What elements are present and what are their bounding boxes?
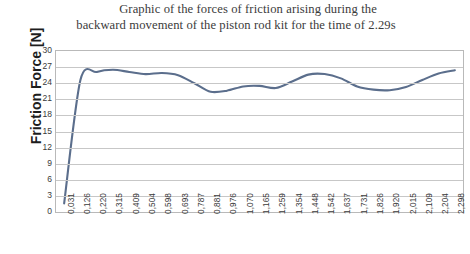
gridline xyxy=(56,148,463,149)
y-axis-tick-label: 24 xyxy=(43,78,52,86)
y-axis-tick-label: 6 xyxy=(47,175,52,183)
x-axis-tick-label: 1,070 xyxy=(246,193,255,214)
y-axis-tick-label: 9 xyxy=(47,159,52,167)
x-axis-tick-label: 2,204 xyxy=(441,193,450,214)
gridline xyxy=(56,83,463,84)
gridline xyxy=(56,132,463,133)
x-axis-tick-label: 0,031 xyxy=(67,193,76,214)
y-axis-tick-label: 21 xyxy=(43,94,52,102)
x-axis-tick-label: 0,409 xyxy=(132,193,141,214)
x-axis-tick-label: 1,354 xyxy=(295,193,304,214)
gridline xyxy=(56,99,463,100)
gridline xyxy=(56,67,463,68)
chart-title-line-1: Graphic of the forces of friction arisin… xyxy=(0,1,470,17)
x-axis-tick-label: 1,448 xyxy=(311,193,320,214)
x-axis-tick-label: 1,259 xyxy=(278,193,287,214)
y-axis-tick-label: 3 xyxy=(47,191,52,199)
x-axis-tick-label: 1,826 xyxy=(376,193,385,214)
x-axis-tick-label: 0,976 xyxy=(229,193,238,214)
data-series-line xyxy=(64,69,455,203)
gridline xyxy=(56,180,463,181)
x-axis-tick-labels: 0,0310,1260,2200,3150,4090,5040,5980,693… xyxy=(55,214,464,254)
y-axis-tick-label: 30 xyxy=(43,46,52,54)
chart-title: Graphic of the forces of friction arisin… xyxy=(0,1,470,33)
x-axis-tick-label: 2,298 xyxy=(457,193,466,214)
chart-title-line-2: backward movement of the piston rod kit … xyxy=(0,17,470,33)
x-axis-tick-label: 1,731 xyxy=(360,193,369,214)
y-axis-tick-label: 27 xyxy=(43,62,52,70)
x-axis-tick-label: 0,315 xyxy=(115,193,124,214)
x-axis-tick-label: 0,693 xyxy=(181,193,190,214)
x-axis-tick-label: 0,881 xyxy=(213,193,222,214)
y-axis-tick-label: 15 xyxy=(43,127,52,135)
x-axis-tick-label: 1,637 xyxy=(343,193,352,214)
x-axis-tick-label: 0,787 xyxy=(197,193,206,214)
x-axis-tick-label: 1,542 xyxy=(327,193,336,214)
y-axis-tick-label: 12 xyxy=(43,143,52,151)
x-axis-tick-label: 0,598 xyxy=(164,193,173,214)
x-axis-tick-label: 1,920 xyxy=(392,193,401,214)
x-axis-tick-label: 2,109 xyxy=(425,193,434,214)
gridline xyxy=(56,115,463,116)
y-axis-tick-label: 18 xyxy=(43,110,52,118)
x-axis-tick-label: 0,220 xyxy=(99,193,108,214)
x-axis-tick-label: 1,165 xyxy=(262,193,271,214)
x-axis-tick-label: 0,126 xyxy=(83,193,92,214)
x-axis-tick-label: 0,504 xyxy=(148,193,157,214)
gridline xyxy=(56,164,463,165)
x-axis-tick-label: 2,015 xyxy=(409,193,418,214)
y-axis-tick-labels: 036912151821242730 xyxy=(30,50,52,213)
plot-area xyxy=(55,50,464,213)
y-axis-tick-label: 0 xyxy=(47,207,52,215)
